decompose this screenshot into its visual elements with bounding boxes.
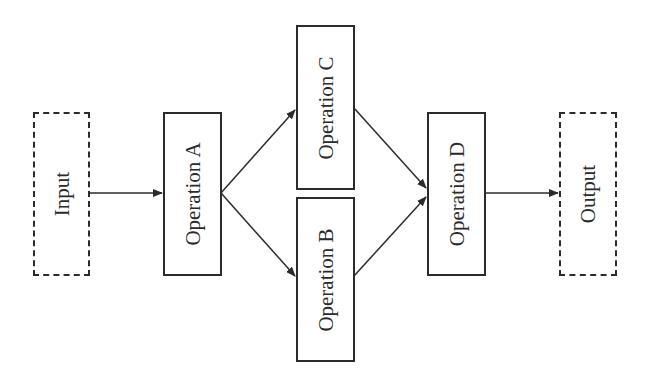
node-operation-d-label: Operation D	[444, 142, 469, 246]
node-output: Output	[559, 112, 617, 276]
node-operation-a: Operation A	[163, 112, 222, 276]
node-operation-a-label: Operation A	[180, 142, 205, 245]
node-input-label: Input	[49, 172, 74, 216]
edge-op-b-to-op-d	[354, 197, 426, 276]
node-operation-b-label: Operation B	[313, 228, 338, 331]
node-operation-c-label: Operation C	[313, 56, 338, 159]
edge-op-a-to-op-b	[221, 193, 295, 276]
node-output-label: Output	[576, 165, 601, 223]
node-operation-b: Operation B	[296, 197, 355, 362]
edge-op-a-to-op-c	[221, 110, 295, 193]
node-operation-c: Operation C	[296, 25, 355, 190]
node-operation-d: Operation D	[427, 112, 486, 276]
flow-diagram: Input Operation A Operation C Operation …	[0, 0, 649, 382]
node-input: Input	[33, 112, 90, 276]
edge-op-c-to-op-d	[354, 108, 426, 188]
